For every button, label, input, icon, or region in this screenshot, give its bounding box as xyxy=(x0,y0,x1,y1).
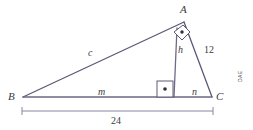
dimension-line-24 xyxy=(22,107,213,115)
watermark-text: DAE xyxy=(237,71,243,82)
triangle-drawing xyxy=(0,0,253,130)
geometry-figure: A B C c 12 h m n 24 DAE xyxy=(0,0,253,130)
side-label-12: 12 xyxy=(204,45,214,55)
segment-label-n: n xyxy=(192,87,197,97)
vertex-label-c: C xyxy=(216,91,223,102)
altitude-label-h: h xyxy=(178,45,183,55)
vertex-label-a: A xyxy=(180,4,187,15)
right-angle-marker-at-foot xyxy=(157,81,173,97)
vertex-label-b: B xyxy=(8,91,15,102)
base-label-24: 24 xyxy=(111,116,121,126)
altitude-line xyxy=(174,28,177,97)
segment-label-m: m xyxy=(98,87,105,97)
side-label-c: c xyxy=(88,48,92,58)
